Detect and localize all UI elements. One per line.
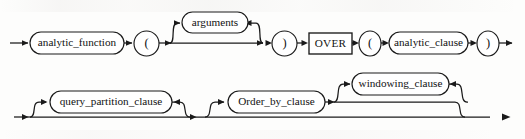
node-over-keyword[interactable]: OVER <box>309 33 352 54</box>
node-open-paren-1[interactable]: ( <box>134 31 159 56</box>
rail-arrow-order-by-exit <box>328 99 335 105</box>
rail-branch-query-partition <box>30 102 46 117</box>
node-close-paren-1-label: ) <box>282 36 286 50</box>
rail-arrow-top-row-exit <box>506 40 513 46</box>
rail-arrow-into-analytic-clause <box>383 40 390 46</box>
rail-arrow-into-query-partition <box>41 99 48 105</box>
rail-arrow-into-order-by <box>218 99 225 105</box>
node-windowing-clause-label: windowing_clause <box>359 77 443 89</box>
railroad-diagram: analytic_function ( arguments ) OVER ( a… <box>0 0 525 139</box>
rail-branch-order-by <box>205 102 224 117</box>
rail-arrow-into-windowing <box>344 81 351 87</box>
rail-arrow-into-close-paren-2 <box>471 40 478 46</box>
node-arguments-label: arguments <box>192 16 238 28</box>
rail-arguments-merge <box>250 23 263 43</box>
node-close-paren-2[interactable]: ) <box>477 31 499 56</box>
node-open-paren-1-label: ( <box>144 36 148 50</box>
rail-arrow-into-open-paren-2 <box>353 40 360 46</box>
node-open-paren-2-label: ( <box>368 36 372 50</box>
rail-arrow-windowing-right <box>450 81 457 87</box>
node-order-by-clause-label: Order_by_clause <box>238 95 314 107</box>
rail-split-up-arguments <box>170 23 180 43</box>
node-close-paren-1[interactable]: ) <box>272 31 297 56</box>
node-order-by-clause[interactable]: Order_by_clause <box>228 91 325 113</box>
rail-bypass-windowing <box>334 102 465 117</box>
node-windowing-clause[interactable]: windowing_clause <box>352 73 449 95</box>
rail-arrow-into-over <box>302 40 309 46</box>
node-analytic-clause[interactable]: analytic_clause <box>389 32 468 54</box>
node-close-paren-2-label: ) <box>486 36 490 50</box>
node-query-partition-clause-label: query_partition_clause <box>60 95 163 107</box>
node-analytic-function[interactable]: analytic_function <box>30 32 124 54</box>
rail-arrow-into-close-paren-1 <box>266 40 273 46</box>
node-query-partition-clause[interactable]: query_partition_clause <box>50 91 172 113</box>
rail-arrow-after-query-partition <box>190 114 197 120</box>
rail-arrow-query-partition-right <box>174 99 181 105</box>
node-arguments[interactable]: arguments <box>182 12 248 33</box>
node-over-keyword-label: OVER <box>315 37 347 49</box>
railroad-diagram-canvas: analytic_function ( arguments ) OVER ( a… <box>0 0 525 139</box>
rail-arrow-bottom-entry <box>22 114 29 120</box>
rail-merge-windowing <box>449 84 468 102</box>
rail-branch-windowing <box>334 84 350 102</box>
node-analytic-clause-label: analytic_clause <box>394 36 463 48</box>
node-analytic-function-label: analytic_function <box>38 36 117 48</box>
rail-merge-query-partition <box>172 102 190 117</box>
rail-arrow-bottom-exit <box>502 114 511 121</box>
node-open-paren-2[interactable]: ( <box>359 31 381 56</box>
